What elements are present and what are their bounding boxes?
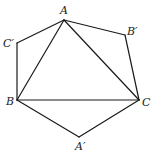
vertex-label-b: B [5,95,14,108]
edge-ap-b [17,100,79,137]
vertex-label-c: C [142,96,151,109]
geometry-diagram: AB′C′BCA′ [0,0,154,151]
vertex-label-ap: A′ [74,140,86,151]
vertex-label-a: A [59,4,68,17]
vertex-label-cp: C′ [3,37,14,50]
edge-a-bp [64,20,125,35]
edges [17,20,139,137]
vertex-labels: AB′C′BCA′ [3,4,151,151]
edge-bp-c [125,35,139,100]
edge-c-ap [79,100,139,137]
vertex-label-bp: B′ [126,25,138,38]
